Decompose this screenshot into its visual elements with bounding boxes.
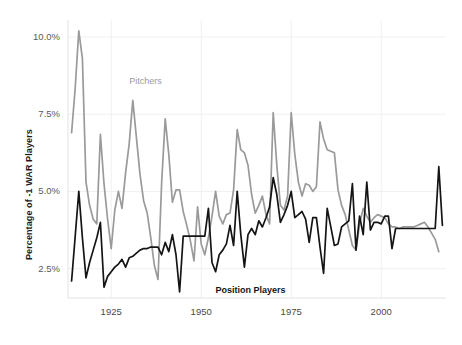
series-line-position-players	[72, 167, 443, 292]
series-label-pitchers: Pitchers	[129, 76, 162, 86]
y-tick-label: 5.0%	[4, 185, 60, 196]
x-tick-label: 1950	[171, 306, 231, 317]
y-tick-label: 2.5%	[4, 263, 60, 274]
x-tick-label: 2000	[351, 306, 411, 317]
y-tick-label: 7.5%	[4, 108, 60, 119]
y-tick-label: 10.0%	[4, 31, 60, 42]
x-tick-label: 1975	[261, 306, 321, 317]
series-label-position-players: Position Players	[216, 285, 286, 295]
series-line-pitchers	[72, 31, 439, 280]
chart-container: Percentage of -1 WAR Players 2.5%5.0%7.5…	[0, 0, 462, 345]
x-tick-label: 1925	[81, 306, 141, 317]
